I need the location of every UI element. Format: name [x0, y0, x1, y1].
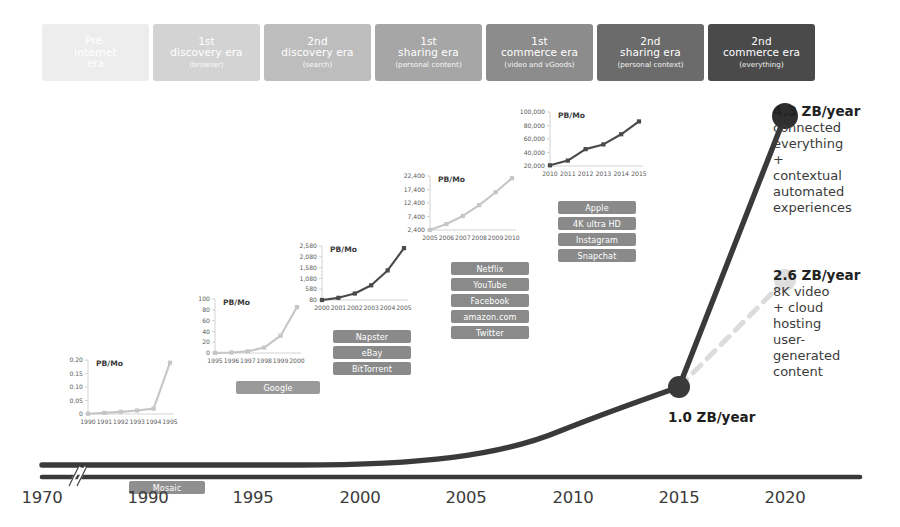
era-box-0[interactable]: Pre- internet era	[42, 24, 149, 81]
node-label-1-0-zb: 1.0 ZB/year	[668, 409, 755, 425]
inset-ytick-label: 20	[202, 338, 210, 345]
inset-xtick-label: 2000	[289, 357, 305, 364]
inset-ytick-label: 2,400	[408, 226, 426, 233]
era-box-6-title: 2nd commerce era	[723, 36, 800, 60]
inset-xtick-label: 1998	[256, 357, 272, 364]
inset-ytick-label: 2,080	[300, 253, 318, 260]
inset-series-line	[215, 307, 297, 353]
inset-xtick-label: 2012	[578, 170, 594, 177]
inset-ytick-label: 80	[202, 306, 210, 313]
inset-xtick-label: 2005	[396, 304, 412, 311]
inset-ytick-label: 60,000	[524, 135, 545, 142]
tag-snapchat[interactable]: Snapchat	[558, 249, 636, 262]
tag-twitter[interactable]: Twitter	[451, 326, 529, 339]
inset-data-point	[86, 412, 90, 416]
inset-2000-2005: 805801,0801,5802,0802,580200020012002200…	[292, 238, 410, 316]
inset-xtick-label: 2006	[439, 234, 455, 241]
inset-data-point	[619, 132, 623, 136]
era-box-0-title: Pre- internet era	[74, 35, 116, 70]
inset-xtick-label: 1992	[113, 418, 129, 425]
inset-data-point	[566, 159, 570, 163]
tag-ebay[interactable]: eBay	[333, 346, 411, 359]
inset-data-point	[135, 408, 139, 412]
axis-year-2000: 2000	[339, 488, 380, 507]
tag-netflix[interactable]: Netflix	[451, 262, 529, 275]
inset-data-point	[428, 228, 432, 232]
axis-year-1990: 1990	[127, 488, 168, 507]
inset-unit-label: PB/Mo	[223, 298, 250, 307]
inset-data-point	[262, 346, 266, 350]
tag-instagram[interactable]: Instagram	[558, 233, 636, 246]
inset-xtick-label: 2003	[363, 304, 379, 311]
inset-data-point	[320, 298, 324, 302]
era-ribbon: Pre- internet era1st discovery era(brows…	[0, 0, 900, 100]
inset-data-point	[494, 190, 498, 194]
inset-data-point	[477, 203, 481, 207]
timeline-axis: 19701990199520002005201020152020	[0, 455, 900, 527]
tag-4k-ultra-hd[interactable]: 4K ultra HD	[558, 217, 636, 230]
axis-year-2020: 2020	[764, 488, 805, 507]
inset-ytick-label: 0.15	[69, 370, 83, 377]
inset-ytick-label: 1,080	[300, 275, 318, 282]
era-box-6-subtitle: (everything)	[739, 61, 783, 69]
inset-data-point	[353, 291, 357, 295]
tag-facebook[interactable]: Facebook	[451, 294, 529, 307]
annotation-2-6-zb-body: 8K video + cloud hosting user- generated…	[773, 284, 895, 381]
inset-xtick-label: 2013	[596, 170, 612, 177]
inset-2010-2015: 20,00040,00060,00080,000100,000201020112…	[520, 104, 645, 182]
inset-data-point	[510, 176, 514, 180]
inset-data-point	[229, 350, 233, 354]
inset-ytick-label: 0	[206, 349, 210, 356]
inset-ytick-label: 100	[198, 295, 210, 302]
inset-ytick-label: 100,000	[520, 108, 545, 115]
era-box-4-subtitle: (video and vGoods)	[504, 61, 574, 69]
era-box-1[interactable]: 1st discovery era(browser)	[153, 24, 260, 81]
era-box-4[interactable]: 1st commerce era(video and vGoods)	[486, 24, 593, 81]
inset-ytick-label: 0	[79, 410, 83, 417]
inset-xtick-label: 2010	[542, 170, 558, 177]
inset-unit-label: PB/Mo	[330, 245, 357, 254]
tag-napster[interactable]: Napster	[333, 330, 411, 343]
axis-year-1970: 1970	[21, 488, 62, 507]
inset-data-point	[102, 411, 106, 415]
inset-series-line	[430, 178, 512, 230]
tag-apple[interactable]: Apple	[558, 201, 636, 214]
inset-xtick-label: 2014	[613, 170, 629, 177]
node-2015-dot	[668, 376, 690, 398]
inset-unit-label: PB/Mo	[558, 111, 585, 120]
annotation-4-3-zb-head: 4.3 ZB/year	[773, 103, 895, 120]
inset-xtick-label: 1995	[162, 418, 178, 425]
inset-data-point	[637, 119, 641, 123]
inset-data-point	[584, 147, 588, 151]
era-box-5-subtitle: (personal context)	[617, 61, 683, 69]
inset-data-point	[461, 214, 465, 218]
inset-xtick-label: 1994	[146, 418, 162, 425]
era-box-4-title: 1st commerce era	[501, 36, 578, 60]
tag-bittorrent[interactable]: BitTorrent	[333, 362, 411, 375]
inset-ytick-label: 580	[305, 285, 317, 292]
inset-ytick-label: 0.10	[69, 383, 83, 390]
era-box-6[interactable]: 2nd commerce era(everything)	[708, 24, 815, 81]
inset-series-line	[550, 121, 639, 165]
inset-ytick-label: 1,580	[300, 264, 318, 271]
era-box-2[interactable]: 2nd discovery era(search)	[264, 24, 371, 81]
inset-2005-2010: 2,4007,40012,40017,40022,400200520062007…	[400, 168, 518, 246]
inset-ytick-label: 40	[202, 328, 210, 335]
era-box-5[interactable]: 2nd sharing era(personal context)	[597, 24, 704, 81]
tag-youtube[interactable]: YouTube	[451, 278, 529, 291]
inset-ytick-label: 22,400	[404, 172, 425, 179]
inset-axis-lines	[215, 299, 301, 353]
inset-xtick-label: 2002	[347, 304, 363, 311]
inset-1995-2000: 020406080100199519961997199819992000PB/M…	[185, 291, 303, 369]
inset-ytick-label: 80,000	[524, 122, 545, 129]
inset-data-point	[336, 296, 340, 300]
inset-data-point	[386, 268, 390, 272]
era-box-3[interactable]: 1st sharing era(personal content)	[375, 24, 482, 81]
axis-year-2010: 2010	[552, 488, 593, 507]
tag-google[interactable]: Google	[236, 381, 320, 394]
inset-xtick-label: 2010	[504, 234, 520, 241]
annotation-4-3-zb: 4.3 ZB/year connected everything + conte…	[773, 103, 895, 217]
inset-ytick-label: 20,000	[524, 162, 545, 169]
inset-ytick-label: 80	[309, 296, 317, 303]
tag-amazon-com[interactable]: amazon.com	[451, 310, 529, 323]
